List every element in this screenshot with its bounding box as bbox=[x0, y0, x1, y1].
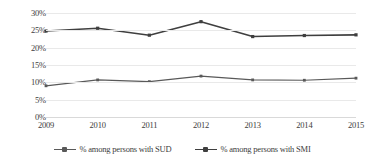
data-point-marker bbox=[354, 33, 357, 36]
y-axis-tick-label: 5% bbox=[12, 95, 46, 105]
legend-marker-icon bbox=[195, 145, 217, 154]
x-axis-tick-label: 2011 bbox=[141, 120, 157, 130]
data-point-marker bbox=[200, 75, 203, 78]
legend-marker-icon bbox=[54, 145, 76, 154]
data-point-marker bbox=[303, 79, 306, 82]
plot-area bbox=[46, 13, 356, 117]
data-point-marker bbox=[96, 79, 99, 82]
legend-label: % among persons with SUD bbox=[79, 144, 171, 154]
series-line bbox=[46, 22, 356, 37]
y-axis-tick-label: 20% bbox=[12, 43, 46, 53]
gridline bbox=[46, 13, 356, 14]
x-axis-tick-label: 2012 bbox=[193, 120, 209, 130]
gridline bbox=[46, 48, 356, 49]
legend-item[interactable]: % among persons with SUD bbox=[54, 144, 171, 154]
data-point-marker bbox=[148, 34, 151, 37]
x-axis-tick-label: 2015 bbox=[348, 120, 364, 130]
gridline bbox=[46, 82, 356, 83]
y-axis-tick-label: 10% bbox=[12, 77, 46, 87]
data-point-marker bbox=[199, 20, 202, 23]
data-point-marker bbox=[303, 34, 306, 37]
legend-label: % among persons with SMI bbox=[220, 144, 310, 154]
series-line bbox=[46, 76, 356, 86]
x-axis-tick-label: 2014 bbox=[296, 120, 312, 130]
legend-item[interactable]: % among persons with SMI bbox=[195, 144, 310, 154]
x-axis-line bbox=[46, 117, 356, 118]
gridline bbox=[46, 30, 356, 31]
chart-legend: % among persons with SUD% among persons … bbox=[0, 144, 365, 154]
data-point-marker bbox=[45, 84, 48, 87]
data-point-marker bbox=[251, 79, 254, 82]
x-axis-tick-label: 2010 bbox=[90, 120, 106, 130]
y-axis-tick-label: 30% bbox=[12, 8, 46, 18]
data-point-marker bbox=[251, 35, 254, 38]
line-chart: 0%5%10%15%20%25%30% 20092010201120122013… bbox=[0, 0, 365, 167]
x-axis-tick-label: 2013 bbox=[245, 120, 261, 130]
gridline bbox=[46, 65, 356, 66]
y-axis-tick-label: 25% bbox=[12, 25, 46, 35]
data-point-marker bbox=[355, 77, 358, 80]
y-axis-tick-label: 15% bbox=[12, 60, 46, 70]
gridline bbox=[46, 100, 356, 101]
x-axis-tick-label: 2009 bbox=[38, 120, 54, 130]
